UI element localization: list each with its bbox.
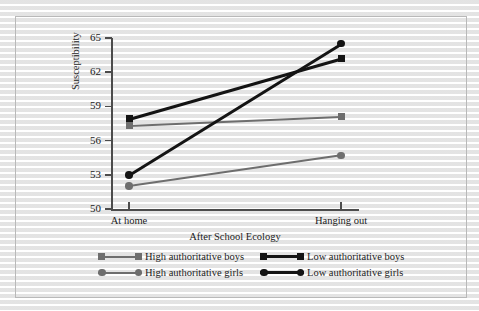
data-point-marker-square — [338, 113, 345, 120]
legend-marker-square-right — [297, 253, 304, 260]
y-tick-mark — [105, 106, 112, 108]
legend-marker-circle-right — [297, 269, 305, 277]
legend-label: Low authoritative girls — [307, 267, 403, 278]
legend-label: High authoritative girls — [145, 267, 243, 278]
y-tick-label: 53 — [75, 169, 101, 180]
y-tick-mark — [105, 37, 112, 39]
legend-line-swatch — [260, 268, 304, 278]
legend-marker-circle-left — [260, 269, 268, 277]
legend-marker-square-right — [135, 253, 142, 260]
x-axis-title: After School Ecology — [111, 231, 359, 242]
data-point-marker-square — [126, 115, 133, 122]
data-point-marker-square — [126, 122, 133, 129]
legend-line-swatch — [260, 252, 304, 262]
x-axis-line — [111, 209, 359, 211]
legend-item-low-authoritative-boys: Low authoritative boys — [260, 251, 404, 262]
legend-row-2: High authoritative girls Low authoritati… — [98, 267, 398, 283]
legend-marker-circle-left — [98, 269, 106, 277]
x-tick-mark — [128, 202, 130, 209]
y-tick-mark — [105, 174, 112, 176]
legend-row-1: High authoritative boys Low authoritativ… — [98, 251, 398, 267]
legend-item-high-authoritative-girls: High authoritative girls — [98, 267, 243, 278]
y-tick-label: 50 — [75, 203, 101, 214]
legend-item-high-authoritative-boys: High authoritative boys — [98, 251, 244, 262]
legend-label: High authoritative boys — [145, 251, 244, 262]
legend-marker-circle-right — [135, 269, 143, 277]
legend-marker-square-left — [98, 253, 105, 260]
legend-label: Low authoritative boys — [307, 251, 404, 262]
y-tick-label: 56 — [75, 135, 101, 146]
legend-item-low-authoritative-girls: Low authoritative girls — [260, 267, 403, 278]
data-point-marker-circle — [125, 182, 133, 190]
scanned-figure-page: 505356596265 Susceptibility At homeHangi… — [0, 0, 479, 311]
y-tick-mark — [105, 71, 112, 73]
chart-legend: High authoritative boys Low authoritativ… — [98, 251, 398, 283]
legend-marker-square-left — [260, 253, 267, 260]
x-tick-mark — [340, 202, 342, 209]
legend-line-swatch — [98, 252, 142, 262]
x-tick-label: At home — [79, 215, 179, 227]
y-axis-line — [111, 38, 113, 210]
y-tick-label: 59 — [75, 100, 101, 111]
y-tick-mark — [105, 140, 112, 142]
x-tick-label: Hanging out — [291, 215, 391, 227]
legend-line-swatch — [98, 268, 142, 278]
data-point-marker-circle — [337, 152, 345, 160]
data-point-marker-circle — [125, 171, 133, 179]
y-axis-title: Susceptibility — [70, 32, 81, 90]
data-point-marker-square — [338, 55, 345, 62]
y-tick-mark — [105, 208, 112, 210]
